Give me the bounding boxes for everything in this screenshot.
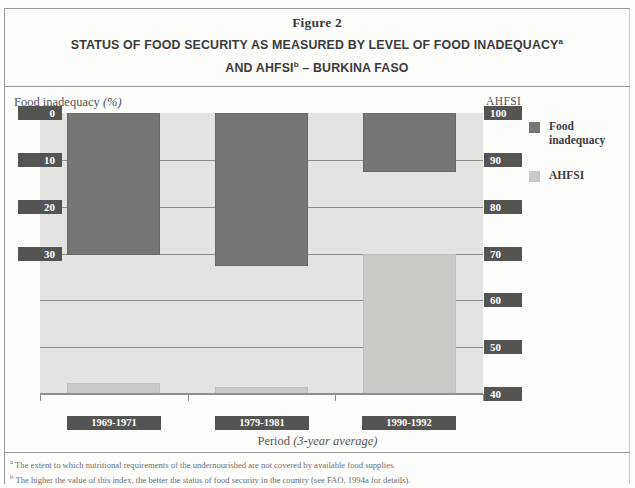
figure-title-block: Figure 2 STATUS OF FOOD SECURITY AS MEAS… [4, 14, 630, 78]
left-axis-tick-0: 0 [18, 106, 62, 120]
x-axis-category-1990-1992: 1990-1992 [362, 416, 456, 430]
footnote-text: The higher the value of this index, the … [14, 475, 411, 485]
bar-food-inadequacy [215, 113, 308, 266]
right-axis-tick-40: 40 [484, 387, 522, 401]
figure-title-text-2b: – BURKINA FASO [299, 61, 409, 75]
top-rule [4, 8, 630, 9]
x-axis-title: Period (3-year average) [0, 434, 635, 449]
footnote-divider-rule [4, 452, 630, 453]
x-axis-tickmark [335, 394, 336, 401]
x-axis-tickmark [40, 394, 41, 401]
legend-label: AHFSI [549, 169, 584, 183]
frame-right-rule [629, 8, 630, 484]
left-axis-tick-30: 30 [18, 247, 62, 261]
figure-number: Figure 2 [4, 14, 630, 32]
legend-item: Food inadequacy [529, 120, 629, 147]
x-axis-category-1969-1971: 1969-1971 [67, 416, 161, 430]
plot-area [40, 113, 483, 394]
footnote-a: a The extent to which nutritional requir… [10, 456, 620, 471]
figure-title-text-2a: AND AHFSI [225, 61, 293, 75]
x-axis-title-em: (3-year average) [293, 434, 377, 448]
x-axis-category-1979-1981: 1979-1981 [215, 416, 309, 430]
x-axis-title-main: Period [257, 434, 293, 448]
chart-legend: Food inadequacyAHFSI [529, 120, 629, 205]
x-axis-baseline [40, 393, 483, 395]
legend-swatch-icon [529, 171, 540, 182]
right-axis-tick-90: 90 [484, 153, 522, 167]
left-axis-title-unit: (%) [103, 95, 122, 109]
legend-item: AHFSI [529, 169, 629, 183]
figure-title-line-1: STATUS OF FOOD SECURITY AS MEASURED BY L… [4, 32, 630, 55]
figure-page: Figure 2 STATUS OF FOOD SECURITY AS MEAS… [0, 0, 635, 488]
x-axis-tickmark [188, 394, 189, 401]
left-axis-tick-10: 10 [18, 153, 62, 167]
frame-left-rule [4, 8, 5, 484]
bar-food-inadequacy [67, 113, 160, 255]
bar-food-inadequacy [363, 113, 456, 172]
footnote-b: b The higher the value of this index, th… [10, 471, 620, 486]
footnotes-block: a The extent to which nutritional requir… [10, 456, 620, 487]
figure-title-footnote-marker-a: a [559, 37, 564, 46]
legend-label: Food inadequacy [549, 120, 629, 147]
figure-title-text-1: STATUS OF FOOD SECURITY AS MEASURED BY L… [71, 38, 559, 52]
figure-title-line-2: AND AHFSIb – BURKINA FASO [4, 55, 630, 78]
left-axis-tick-20: 20 [18, 200, 62, 214]
right-axis-tick-80: 80 [484, 200, 522, 214]
legend-swatch-icon [529, 122, 540, 133]
right-axis-tick-70: 70 [484, 247, 522, 261]
right-axis-tick-50: 50 [484, 340, 522, 354]
bar-ahfsi [363, 254, 456, 394]
footnote-text: The extent to which nutritional requirem… [13, 460, 395, 470]
title-divider-rule [4, 86, 630, 87]
right-axis-tick-60: 60 [484, 293, 522, 307]
right-axis-tick-100: 100 [484, 106, 522, 120]
